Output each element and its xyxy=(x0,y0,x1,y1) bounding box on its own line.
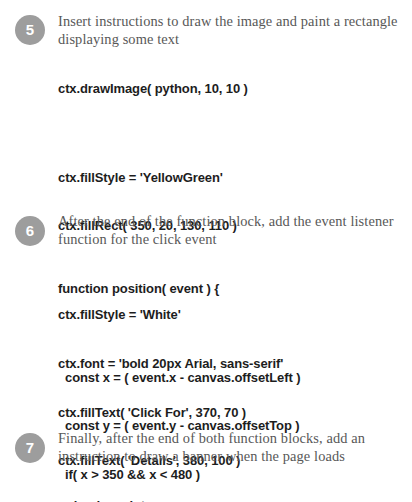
step-7: 7 Finally, after the end of both functio… xyxy=(0,429,412,502)
step-number-badge: 5 xyxy=(15,15,45,45)
code-line: ctx.drawImage( python, 10, 10 ) xyxy=(58,81,406,97)
step-instruction-text: After the end of the function block, add… xyxy=(58,212,406,248)
code-line-blank xyxy=(58,329,406,337)
code-line: const x = ( event.x - canvas.offsetLeft … xyxy=(58,370,406,386)
tutorial-page: 5 Insert instructions to draw the image … xyxy=(0,0,412,502)
step-instruction-text: Finally, after the end of both function … xyxy=(58,429,406,465)
step-instruction-text: Insert instructions to draw the image an… xyxy=(58,12,406,48)
code-line-blank xyxy=(58,129,406,137)
step-number-badge: 7 xyxy=(15,433,45,463)
code-line: onload = paint xyxy=(58,498,406,502)
code-block: onload = paint xyxy=(58,465,406,502)
step-content: Finally, after the end of both function … xyxy=(58,429,412,502)
step-number-badge: 6 xyxy=(15,216,45,246)
code-line: ctx.fillStyle = 'YellowGreen' xyxy=(58,170,406,186)
code-line: function position( event ) { xyxy=(58,281,406,297)
